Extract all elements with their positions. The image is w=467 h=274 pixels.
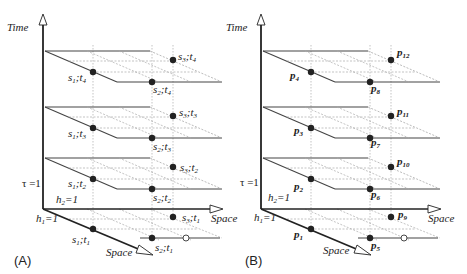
- point-label: s2;t4: [153, 83, 172, 97]
- panel-b: [257, 14, 441, 255]
- point-label: s3;t1: [182, 211, 200, 225]
- diagram-canvas: Time Space Space τ =1 h2=1 h1=1 (A) Time…: [0, 0, 467, 274]
- point-label: p11: [396, 105, 409, 119]
- point-label: s2;t3: [153, 140, 172, 154]
- point-label: p4: [289, 69, 300, 83]
- space-depth-label-a: Space: [106, 246, 132, 258]
- point-label: s2;t2: [153, 191, 172, 205]
- time-axis-label-a: Time: [7, 21, 29, 33]
- point-labels-b: p1 p5 p9 p2 p6 p10 p3 p7 p11 p4 p8 p12: [289, 46, 410, 253]
- point-label: p12: [396, 46, 410, 60]
- point-label: p9: [397, 208, 408, 222]
- h2-label-b: h2=1: [268, 191, 290, 205]
- h1-label-a: h1=1: [36, 212, 58, 226]
- tau-label-b: τ =1: [240, 176, 259, 188]
- point-label: p1: [293, 228, 303, 242]
- panel-a-label: (A): [14, 253, 31, 268]
- point-label: s3;t4: [178, 50, 197, 64]
- space-axis-label-b: Space: [428, 212, 454, 224]
- space-axis-label-a: Space: [211, 212, 237, 224]
- point-label: p8: [370, 82, 381, 96]
- time-axis-label-b: Time: [226, 21, 248, 33]
- point-label: s3;t2: [180, 161, 199, 175]
- point-label: s3;t3: [179, 106, 198, 120]
- h1-label-b: h1=1: [254, 211, 276, 225]
- panel-b-label: (B): [245, 253, 262, 268]
- point-labels-a: s1;t1 s2;t1 s3;t1 s1;t2 s2;t2 s3;t2 s1;t…: [68, 50, 200, 255]
- point-label: p2: [293, 180, 304, 194]
- point-label: s1;t3: [68, 127, 87, 141]
- h2-label-a: h2=1: [56, 193, 78, 207]
- space-depth-label-b: Space: [323, 244, 349, 256]
- tau-label-a: τ =1: [22, 177, 41, 189]
- point-label: s1;t4: [68, 71, 87, 85]
- point-label: s1;t2: [68, 177, 87, 191]
- point-label: p10: [396, 155, 410, 169]
- point-label: s1;t1: [72, 233, 90, 247]
- point-label: p5: [370, 239, 381, 253]
- point-label: s2;t1: [155, 241, 173, 255]
- point-label: p6: [370, 188, 381, 202]
- point-label: p3: [293, 124, 304, 138]
